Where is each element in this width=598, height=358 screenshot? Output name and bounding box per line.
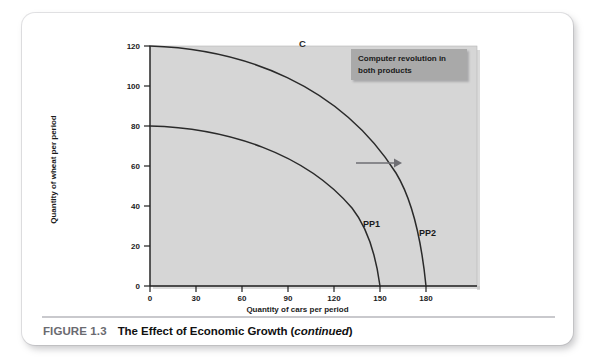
y-tick-label-120: 120 xyxy=(116,42,140,51)
caption-title: The Effect of Economic Growth (continued… xyxy=(118,325,353,337)
x-tick-label-90: 90 xyxy=(276,294,300,303)
caption-title-suffix: ) xyxy=(349,325,353,337)
x-tick-label-150: 150 xyxy=(368,294,392,303)
panel-letter: C xyxy=(299,38,306,49)
y-tick-label-100: 100 xyxy=(116,82,140,91)
y-tick-label-20: 20 xyxy=(116,242,140,251)
curve-label-pp2: PP2 xyxy=(419,228,436,238)
caption-title-prefix: The Effect of Economic Growth ( xyxy=(118,325,295,337)
figure-caption: FIGURE 1.3 The Effect of Economic Growth… xyxy=(43,325,563,337)
x-tick-label-0: 0 xyxy=(138,294,162,303)
curve-label-pp1: PP1 xyxy=(363,219,380,229)
y-tick-label-60: 60 xyxy=(116,162,140,171)
y-tick-label-40: 40 xyxy=(116,202,140,211)
caption-figure-number: FIGURE 1.3 xyxy=(43,325,107,337)
caption-divider xyxy=(42,316,555,318)
y-tick-label-80: 80 xyxy=(116,122,140,131)
plot-background xyxy=(150,46,477,286)
y-axis-title: Quantity of wheat per period xyxy=(49,85,58,255)
ppf-chart-svg xyxy=(22,13,573,308)
annotation-callout-text: Computer revolution in both products xyxy=(358,53,460,76)
annotation-callout: Computer revolution in both products xyxy=(351,49,467,80)
chart-region: C 0 20 40 60 80 100 120 0 30 60 90 120 1… xyxy=(22,13,573,308)
x-tick-label-180: 180 xyxy=(414,294,438,303)
plot-shadow-edge xyxy=(477,50,480,290)
x-axis-title: Quantity of cars per period xyxy=(22,305,573,314)
x-tick-label-60: 60 xyxy=(230,294,254,303)
caption-title-continued: continued xyxy=(294,325,349,337)
y-tick-label-0: 0 xyxy=(116,282,140,291)
y-axis-ticks xyxy=(144,46,150,286)
x-tick-label-120: 120 xyxy=(322,294,346,303)
figure-card: C 0 20 40 60 80 100 120 0 30 60 90 120 1… xyxy=(22,13,573,345)
x-tick-label-30: 30 xyxy=(184,294,208,303)
